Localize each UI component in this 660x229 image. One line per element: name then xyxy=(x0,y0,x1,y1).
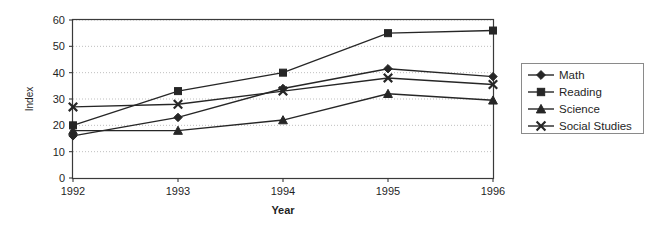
legend-item-label: Science xyxy=(559,103,600,115)
series-group xyxy=(69,27,498,140)
line-chart: 0102030405060 19921993199419951996 Year … xyxy=(0,0,660,229)
y-axis-tick-label: 30 xyxy=(53,93,65,105)
x-axis-tick-labels: 19921993199419951996 xyxy=(61,185,505,197)
legend-item-label: Math xyxy=(559,69,585,81)
y-axis-tick-label: 50 xyxy=(53,40,65,52)
x-axis-tick-label: 1995 xyxy=(376,185,400,197)
y-axis-tick-label: 60 xyxy=(53,14,65,26)
square-marker xyxy=(385,30,392,37)
x-axis-tick-label: 1994 xyxy=(271,185,295,197)
square-marker xyxy=(280,69,287,76)
x-axis-title: Year xyxy=(271,204,295,216)
series-science xyxy=(69,89,498,134)
legend-item-label: Reading xyxy=(559,86,602,98)
diamond-marker xyxy=(174,113,182,121)
chart-svg: 0102030405060 19921993199419951996 Year … xyxy=(0,0,660,229)
y-axis-tick-label: 20 xyxy=(53,119,65,131)
y-axis-tick-label: 0 xyxy=(59,172,65,184)
x-axis-tick-label: 1992 xyxy=(61,185,85,197)
series-line xyxy=(73,31,493,126)
y-axis-title: Index xyxy=(24,87,35,111)
square-marker xyxy=(175,88,182,95)
y-axis-tick-labels: 0102030405060 xyxy=(53,14,65,184)
series-social-studies xyxy=(69,74,497,111)
x-axis-tick-label: 1996 xyxy=(481,185,505,197)
diamond-marker xyxy=(489,72,497,80)
legend-item-label: Social Studies xyxy=(559,120,632,132)
square-marker xyxy=(490,27,497,34)
series-reading xyxy=(70,27,497,129)
x-axis-tick-label: 1993 xyxy=(166,185,190,197)
square-marker xyxy=(537,88,544,95)
diamond-marker xyxy=(384,65,392,73)
y-axis-tick-label: 10 xyxy=(53,146,65,158)
legend: MathReadingScienceSocial Studies xyxy=(522,64,644,134)
y-axis-tick-label: 40 xyxy=(53,67,65,79)
